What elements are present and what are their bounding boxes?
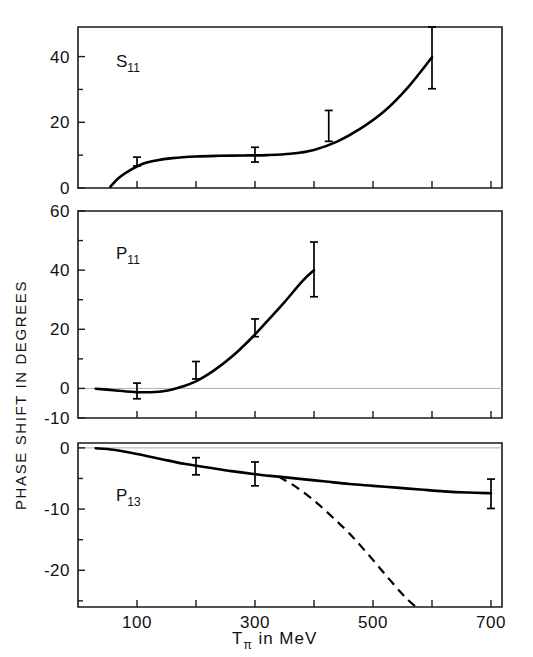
panel-label-sub: 11	[127, 253, 140, 267]
y-tick-label: -10	[44, 500, 70, 519]
phase-shift-figure: PHASE SHIFT IN DEGREES 02040S11 -1002040…	[0, 0, 533, 657]
panel-label-sub: 11	[127, 61, 140, 75]
x-tick-label: 500	[358, 613, 388, 632]
panel-label-sub: 13	[127, 495, 141, 509]
data-curve-solid	[110, 57, 432, 186]
y-tick-label: 0	[60, 379, 70, 398]
panel-frame	[78, 211, 502, 418]
panel-p11: -100204060P11	[44, 202, 502, 428]
y-tick-label: 60	[50, 202, 70, 221]
data-curve-dashed	[279, 477, 418, 609]
panel-label: P13	[116, 486, 141, 509]
panel-label-main: S	[116, 52, 127, 71]
x-axis-title-text: Tπ in MeV	[232, 629, 317, 652]
chart-canvas: PHASE SHIFT IN DEGREES 02040S11 -1002040…	[0, 0, 533, 657]
x-axis-title-sub: π	[243, 638, 252, 652]
panel-label: P11	[116, 244, 140, 267]
x-tick-label: 100	[122, 613, 152, 632]
y-tick-label: -20	[44, 561, 70, 580]
panel-frame	[78, 443, 502, 607]
panel-label-main: P	[116, 244, 127, 263]
y-tick-label: 40	[50, 48, 70, 67]
y-tick-label: 40	[50, 261, 70, 280]
x-axis-title-main: T	[232, 629, 243, 648]
y-tick-label: -10	[44, 409, 70, 428]
panel-label-main: P	[116, 486, 127, 505]
y-tick-label: 20	[50, 113, 70, 132]
panel-s11: 02040S11	[50, 27, 502, 198]
x-axis-title-rest: in MeV	[253, 629, 318, 648]
y-tick-label: 20	[50, 320, 70, 339]
x-axis-title: Tπ in MeV	[232, 629, 317, 652]
x-tick-label: 700	[476, 613, 506, 632]
y-tick-label: 0	[60, 439, 70, 458]
panel-label: S11	[116, 52, 140, 75]
panel-p13: 0-10-20100300500700P13	[44, 439, 506, 632]
data-curve-solid	[96, 270, 314, 392]
y-tick-label: 0	[60, 179, 70, 198]
y-axis-title: PHASE SHIFT IN DEGREES	[12, 280, 29, 510]
y-axis-title-text: PHASE SHIFT IN DEGREES	[12, 280, 29, 510]
